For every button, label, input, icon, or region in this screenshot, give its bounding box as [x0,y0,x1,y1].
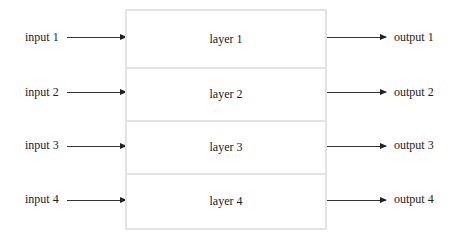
layer-1: layer 1 [127,11,325,67]
input-1-arrow [67,37,126,38]
layer-1-label: layer 1 [210,32,243,47]
output-3-label: output 3 [394,138,434,152]
output-4-label: output 4 [394,192,434,206]
input-2-label: input 2 [25,85,59,99]
input-4-label: input 4 [25,192,59,206]
output-1-label: output 1 [394,30,434,44]
layer-stack: layer 1 layer 2 layer 3 layer 4 [125,9,327,230]
output-2-label: output 2 [394,85,434,99]
output-2-arrow [327,92,386,93]
output-4-arrow [327,200,386,201]
input-3-label: input 3 [25,138,59,152]
input-2-arrow [67,92,126,93]
output-3-arrow [327,146,386,147]
layer-3: layer 3 [127,122,325,173]
output-1-arrow [327,37,386,38]
layer-2: layer 2 [127,69,325,120]
layer-4-label: layer 4 [210,194,243,209]
input-4-arrow [67,200,126,201]
layer-4: layer 4 [127,175,325,228]
layer-2-label: layer 2 [210,87,243,102]
input-3-arrow [67,146,126,147]
layer-3-label: layer 3 [210,140,243,155]
input-1-label: input 1 [25,30,59,44]
